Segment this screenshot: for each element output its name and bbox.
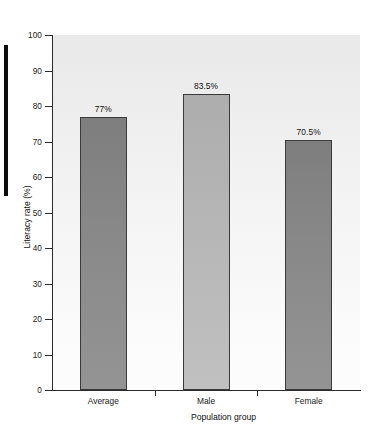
y-tick-50 xyxy=(45,213,52,214)
y-tick-60 xyxy=(45,177,52,178)
y-tick-20 xyxy=(45,319,52,320)
bar-value-label-average: 77% xyxy=(95,104,112,114)
y-tick-label-30: 30 xyxy=(33,279,42,288)
y-tick-30 xyxy=(45,284,52,285)
y-axis-title: Literacy rate (%) xyxy=(22,147,32,287)
y-tick-label-60: 60 xyxy=(33,173,42,182)
x-tick-label-male: Male xyxy=(197,396,215,406)
y-tick-label-50: 50 xyxy=(33,208,42,217)
bar-female xyxy=(285,140,332,390)
y-tick-label-10: 10 xyxy=(33,350,42,359)
x-tick-label-average: Average xyxy=(88,396,119,406)
y-tick-10 xyxy=(45,355,52,356)
literacy-rate-bar-chart: 0102030405060708090100 AverageMaleFemale… xyxy=(0,0,371,440)
y-tick-40 xyxy=(45,248,52,249)
y-tick-label-40: 40 xyxy=(33,244,42,253)
x-tick-1 xyxy=(155,390,156,396)
y-tick-90 xyxy=(45,71,52,72)
x-axis-title-text: Population group xyxy=(191,412,256,422)
y-tick-label-80: 80 xyxy=(33,102,42,111)
y-tick-label-0: 0 xyxy=(37,386,42,395)
y-tick-70 xyxy=(45,142,52,143)
y-tick-label-70: 70 xyxy=(33,137,42,146)
x-axis-title: Population group xyxy=(0,412,371,422)
y-tick-label-20: 20 xyxy=(33,315,42,324)
y-tick-100 xyxy=(45,35,52,36)
y-tick-label-90: 90 xyxy=(33,66,42,75)
bar-value-label-female: 70.5% xyxy=(297,127,321,137)
bar-average xyxy=(80,117,127,390)
y-tick-label-100: 100 xyxy=(28,31,42,40)
bar-male xyxy=(183,94,230,390)
x-tick-label-female: Female xyxy=(295,396,323,406)
x-tick-2 xyxy=(257,390,258,396)
x-axis-line xyxy=(52,390,361,391)
y-axis-line xyxy=(52,35,53,391)
y-tick-80 xyxy=(45,106,52,107)
y-tick-0 xyxy=(45,390,52,391)
bar-value-label-male: 83.5% xyxy=(194,81,218,91)
